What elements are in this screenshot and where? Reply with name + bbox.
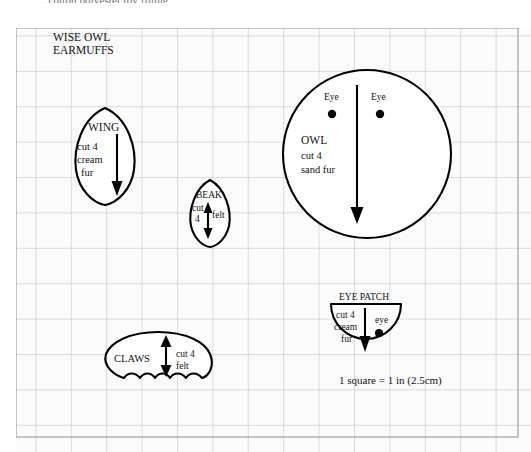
owl-eye-label-right: Eye xyxy=(371,92,386,102)
eye-patch-eye-dot xyxy=(375,329,383,337)
beak-spec-material: felt xyxy=(212,210,225,220)
claws-spec-line-2: felt xyxy=(176,361,189,371)
owl-eye-dot-right xyxy=(376,110,384,118)
pattern-title-line2: EARMUFFS xyxy=(53,44,114,56)
eye-patch-eye-label: eye xyxy=(375,315,388,325)
wing-spec-line-2: cream xyxy=(77,154,103,165)
claws-label: CLAWS xyxy=(114,353,150,364)
owl-spec-line-2: sand fur xyxy=(301,164,336,175)
wing-label: WING xyxy=(88,121,119,133)
eye-patch-spec-line-3: fur xyxy=(341,334,353,344)
beak-label: BEAK xyxy=(196,190,222,200)
pattern-diagram: WISE OWL EARMUFFS WING cut 4 cream fur B… xyxy=(0,0,531,452)
claws-spec-line-1: cut 4 xyxy=(176,349,195,359)
eye-patch-spec-line-1: cut 4 xyxy=(336,310,355,320)
pattern-title-line1: WISE OWL xyxy=(53,31,110,43)
grid-lines xyxy=(16,28,531,452)
wing-spec-line-3: fur xyxy=(81,167,94,178)
eye-patch-label: EYE PATCH xyxy=(339,292,389,302)
eye-patch-spec-line-2: cream xyxy=(334,322,358,332)
owl-eye-dot-left xyxy=(328,110,336,118)
wing-spec-line-1: cut 4 xyxy=(77,141,98,152)
owl-spec-line-1: cut 4 xyxy=(301,150,322,161)
pattern-page: ...cotton polyester toy filling WISE OWL… xyxy=(0,0,531,452)
owl-eye-label-left: Eye xyxy=(324,92,339,102)
beak-spec-cut: cut xyxy=(192,203,204,213)
scale-note: 1 square = 1 in (2.5cm) xyxy=(339,374,442,387)
pattern-piece-claws[interactable]: CLAWS cut 4 felt xyxy=(105,332,212,378)
beak-spec-qty: 4 xyxy=(195,214,200,224)
owl-label: OWL xyxy=(301,134,327,146)
pattern-piece-owl[interactable]: Eye Eye OWL cut 4 sand fur xyxy=(283,70,451,238)
pattern-title: WISE OWL EARMUFFS xyxy=(53,31,114,56)
